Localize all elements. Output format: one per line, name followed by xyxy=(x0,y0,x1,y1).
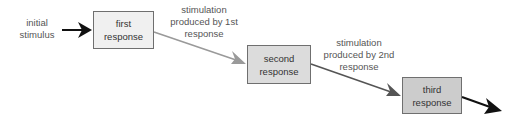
third-response-box: third response xyxy=(402,77,462,114)
second-response-box: second response xyxy=(247,45,311,84)
stimulation-1-line1: stimulation xyxy=(163,4,245,16)
initial-arrow xyxy=(62,22,92,38)
first-response-line2: response xyxy=(104,30,143,43)
stimulation-2-label: stimulation produced by 2nd response xyxy=(318,37,400,73)
first-response-line1: first xyxy=(104,17,143,30)
stimulation-2-line1: stimulation xyxy=(318,37,400,49)
final-arrow xyxy=(462,97,502,114)
initial-stimulus-label: initial stimulus xyxy=(14,17,60,41)
stimulation-1-line2: produced by 1st xyxy=(163,16,245,28)
second-response-line2: response xyxy=(259,65,298,78)
stimulation-1-line3: response xyxy=(163,28,245,40)
second-response-line1: second xyxy=(259,52,298,65)
third-response-line1: third xyxy=(412,83,451,96)
first-response-box: first response xyxy=(93,11,154,49)
initial-stimulus-text: initial stimulus xyxy=(14,17,60,41)
stimulation-2-line3: response xyxy=(318,61,400,73)
third-response-line2: response xyxy=(412,96,451,109)
stimulation-2-line2: produced by 2nd xyxy=(318,49,400,61)
stimulation-1-label: stimulation produced by 1st response xyxy=(163,4,245,40)
